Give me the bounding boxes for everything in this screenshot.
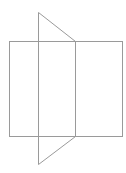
slanted-plane	[39, 13, 76, 165]
folded-plane-diagram	[0, 0, 126, 173]
rectangle-plane	[10, 42, 123, 137]
